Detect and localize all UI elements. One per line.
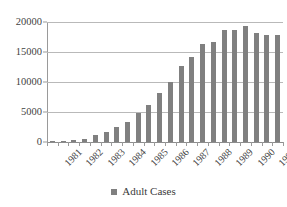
x-tick-mark — [58, 142, 59, 146]
x-tick-mark — [68, 142, 69, 146]
plot-area — [47, 22, 283, 142]
x-tick-mark — [219, 142, 220, 146]
x-tick-mark — [251, 142, 252, 146]
bar — [93, 135, 98, 142]
bar — [200, 44, 205, 142]
x-tick-label-1986: 1986 — [170, 147, 191, 168]
x-tick-label-1982: 1982 — [84, 147, 105, 168]
bar — [104, 132, 109, 142]
x-tick-mark — [101, 142, 102, 146]
bars-layer — [47, 22, 283, 142]
x-tick-mark — [229, 142, 230, 146]
legend-label-adult-cases: Adult Cases — [122, 186, 175, 197]
y-tick-label-0: 0 — [37, 137, 42, 148]
x-tick-mark — [186, 142, 187, 146]
x-tick-label-1981: 1981 — [63, 147, 84, 168]
bar — [168, 82, 173, 142]
y-tick-label-15000: 15000 — [16, 47, 42, 58]
x-tick-label-1987: 1987 — [191, 147, 212, 168]
bar — [136, 113, 141, 142]
bar — [125, 122, 130, 142]
x-tick-mark — [165, 142, 166, 146]
x-tick-mark — [90, 142, 91, 146]
y-tick-label-20000: 20000 — [16, 17, 42, 28]
bar — [146, 105, 151, 143]
bar — [243, 26, 248, 142]
bar-chart-figure: 05000100001500020000 1981198219831984198… — [0, 0, 287, 207]
x-tick-mark — [208, 142, 209, 146]
bar — [222, 30, 227, 142]
bar — [189, 57, 194, 142]
x-tick-mark — [283, 142, 284, 146]
x-tick-mark — [154, 142, 155, 146]
x-tick-mark — [133, 142, 134, 146]
bar — [211, 42, 216, 142]
x-tick-mark — [272, 142, 273, 146]
x-axis-tick-marks — [47, 142, 283, 146]
x-tick-mark — [262, 142, 263, 146]
x-tick-mark — [144, 142, 145, 146]
x-tick-label-1984: 1984 — [127, 147, 148, 168]
x-tick-mark — [111, 142, 112, 146]
x-tick-label-1990: 1990 — [256, 147, 277, 168]
x-tick-mark — [47, 142, 48, 146]
chart-legend: Adult Cases — [0, 186, 287, 197]
y-tick-label-10000: 10000 — [16, 77, 42, 88]
bar — [114, 127, 119, 142]
x-tick-mark — [176, 142, 177, 146]
x-axis-tick-labels: 1981198219831984198519861987198819891990… — [47, 147, 283, 179]
x-tick-mark — [122, 142, 123, 146]
bar — [275, 35, 280, 142]
x-tick-mark — [240, 142, 241, 146]
bar — [179, 66, 184, 142]
x-tick-mark — [79, 142, 80, 146]
x-tick-label-1988: 1988 — [213, 147, 234, 168]
x-tick-label-1991: 1991 — [277, 147, 287, 168]
bar — [157, 93, 162, 142]
bar — [254, 33, 259, 142]
x-tick-label-1989: 1989 — [234, 147, 255, 168]
y-axis-tick-labels: 05000100001500020000 — [0, 22, 42, 142]
bar — [264, 35, 269, 142]
x-tick-label-1983: 1983 — [105, 147, 126, 168]
x-tick-mark — [197, 142, 198, 146]
bar — [232, 30, 237, 142]
y-tick-label-5000: 5000 — [21, 107, 42, 118]
x-tick-label-1985: 1985 — [148, 147, 169, 168]
legend-swatch-adult-cases — [111, 189, 117, 195]
